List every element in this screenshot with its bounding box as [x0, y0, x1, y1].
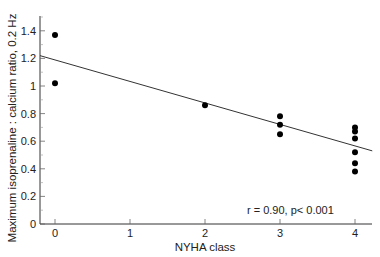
- data-point: [202, 102, 208, 108]
- y-ticks: 00.20.40.60.811.21.4: [21, 17, 45, 230]
- data-point: [52, 80, 58, 86]
- x-tick-label: 3: [277, 227, 283, 239]
- x-tick-label: 2: [202, 227, 208, 239]
- y-tick-label: 1.4: [21, 25, 36, 37]
- correlation-annotation: r = 0.90, p< 0.001: [247, 204, 334, 216]
- x-ticks: 01234: [52, 219, 358, 239]
- data-point: [352, 169, 358, 175]
- data-point: [52, 32, 58, 38]
- data-points: [52, 32, 358, 175]
- y-tick-label: 0.4: [21, 163, 36, 175]
- data-point: [352, 149, 358, 155]
- scatter-chart: 00.20.40.60.811.21.4 01234 r = 0.90, p< …: [0, 0, 380, 257]
- y-tick-label: 0.6: [21, 135, 36, 147]
- axes: [40, 16, 372, 224]
- y-tick-label: 0: [30, 218, 36, 230]
- x-tick-label: 1: [127, 227, 133, 239]
- data-point: [352, 135, 358, 141]
- x-tick-label: 4: [352, 227, 358, 239]
- data-point: [352, 160, 358, 166]
- x-tick-label: 0: [52, 227, 58, 239]
- y-tick-label: 1.2: [21, 52, 36, 64]
- y-tick-label: 0.2: [21, 190, 36, 202]
- y-tick-label: 1: [30, 80, 36, 92]
- data-point: [352, 129, 358, 135]
- data-point: [277, 113, 283, 119]
- y-axis-title: Maximum isoprenaline : calcium ratio, 0.…: [6, 13, 18, 242]
- data-point: [277, 122, 283, 128]
- data-point: [277, 131, 283, 137]
- y-tick-label: 0.8: [21, 108, 36, 120]
- x-axis-title: NYHA class: [175, 241, 236, 253]
